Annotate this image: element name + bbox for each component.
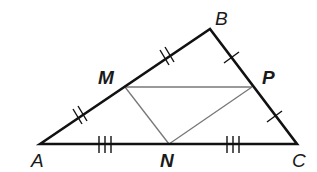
label-B: B: [215, 8, 228, 29]
tick-single-BP: [224, 52, 239, 63]
triangle-diagram: A B C M P N: [0, 0, 317, 172]
label-N: N: [160, 150, 175, 171]
label-M: M: [98, 67, 115, 88]
midsegment-triangle: [125, 87, 252, 144]
segment-MN: [125, 87, 169, 144]
label-P: P: [262, 67, 275, 88]
segment-NP: [169, 87, 252, 144]
vertex-labels: A B C M P N: [30, 8, 306, 171]
label-A: A: [30, 150, 44, 171]
label-C: C: [292, 150, 306, 171]
